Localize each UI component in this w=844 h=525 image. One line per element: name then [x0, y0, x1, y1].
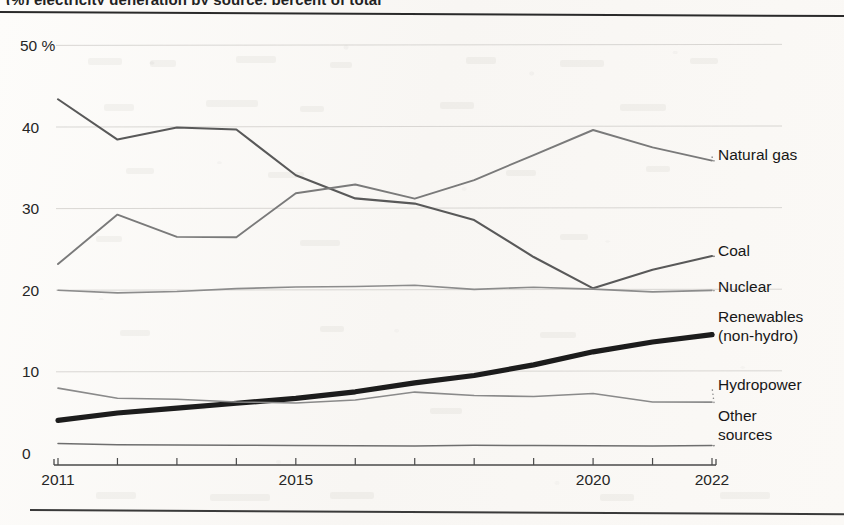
gridline	[56, 126, 782, 127]
y-axis-tick-label: 0	[22, 445, 31, 462]
gridline	[56, 371, 782, 372]
x-axis-tick-label: 2022	[695, 471, 729, 488]
series-label: Coal	[718, 242, 750, 259]
y-axis-tick-label: 30	[22, 200, 40, 217]
series-label: Nuclear	[718, 278, 771, 295]
series-label: (non-hydro)	[718, 327, 798, 344]
line-chart: 50 %4030201002011201520202022CoalNatural…	[0, 0, 844, 525]
series-coal	[58, 99, 714, 288]
series-label: Renewables	[718, 308, 804, 325]
y-axis-tick-label: 10	[22, 363, 40, 380]
x-axis-tick-label: 2020	[576, 471, 611, 488]
gridline	[56, 208, 782, 209]
y-axis-tick-label: 40	[22, 119, 40, 136]
series-line	[58, 99, 712, 288]
leader-dots	[712, 387, 714, 402]
series-label: Hydropower	[718, 376, 802, 393]
series-label: sources	[718, 426, 773, 443]
series-other-sources	[58, 444, 714, 447]
series-natural-gas	[58, 130, 714, 264]
gridline	[56, 289, 782, 290]
series-label: Other	[718, 407, 757, 424]
y-axis-tick-label: 20	[22, 282, 40, 299]
series-line	[58, 130, 712, 264]
x-axis-tick-label: 2015	[279, 471, 313, 488]
series-line	[58, 388, 712, 403]
y-axis-tick-label: 50 %	[20, 37, 56, 54]
series-renewables-non-hydro	[58, 329, 712, 421]
series-line	[58, 444, 712, 446]
gridline	[56, 44, 782, 45]
series-line	[58, 335, 712, 421]
x-axis-tick-label: 2011	[41, 471, 74, 488]
series-label: Natural gas	[718, 146, 798, 163]
